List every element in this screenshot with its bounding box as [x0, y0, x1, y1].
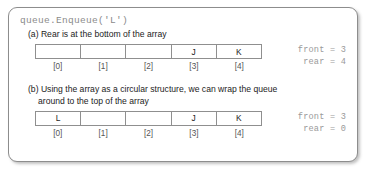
- array-b: L J K [0] [1] [2] [3] [4]: [35, 111, 262, 139]
- front-pointer-label: front = 3: [260, 111, 346, 123]
- array-cell: [36, 45, 81, 58]
- array-b-indices: [0] [1] [2] [3] [4]: [35, 128, 262, 139]
- array-a: J K [0] [1] [2] [3] [4]: [35, 44, 262, 72]
- array-b-cells: L J K: [35, 111, 262, 126]
- pointer-labels-b: front = 3 rear = 0: [260, 111, 346, 135]
- array-cell: [81, 112, 126, 125]
- caption-b-text: Using the array as a circular structure,…: [41, 84, 277, 94]
- array-index-label: [4]: [217, 128, 262, 139]
- array-cell: J: [172, 45, 217, 58]
- array-index-label: [0]: [35, 128, 80, 139]
- array-index-label: [0]: [35, 61, 80, 72]
- code-title: queue.Enqueue('L'): [20, 14, 348, 27]
- array-index-label: [3]: [171, 61, 216, 72]
- array-index-label: [3]: [171, 128, 216, 139]
- caption-b-continuation: around to the top of the array: [28, 96, 348, 107]
- array-cell: J: [172, 112, 217, 125]
- array-cell: L: [36, 112, 81, 125]
- rear-pointer-label: rear = 4: [260, 56, 346, 68]
- rear-pointer-label: rear = 0: [260, 123, 346, 135]
- pointer-labels-a: front = 3 rear = 4: [260, 44, 346, 68]
- array-index-label: [2]: [126, 128, 171, 139]
- array-index-label: [2]: [126, 61, 171, 72]
- caption-b: (b) Using the array as a circular struct…: [20, 84, 348, 107]
- front-pointer-label: front = 3: [260, 44, 346, 56]
- array-index-label: [1]: [80, 128, 125, 139]
- array-cell: K: [217, 45, 261, 58]
- caption-b-label: (b): [28, 84, 39, 94]
- caption-a: (a) Rear is at the bottom of the array: [20, 29, 348, 40]
- array-index-label: [1]: [80, 61, 125, 72]
- array-a-cells: J K: [35, 44, 262, 59]
- array-cell: [126, 45, 171, 58]
- array-cell: [126, 112, 171, 125]
- array-index-label: [4]: [217, 61, 262, 72]
- figure-panel: queue.Enqueue('L') (a) Rear is at the bo…: [8, 7, 358, 162]
- caption-a-label: (a): [28, 29, 39, 39]
- array-a-indices: [0] [1] [2] [3] [4]: [35, 61, 262, 72]
- caption-a-text: Rear is at the bottom of the array: [41, 29, 167, 39]
- figure-inner: queue.Enqueue('L') (a) Rear is at the bo…: [9, 8, 357, 161]
- array-cell: [81, 45, 126, 58]
- array-panel-a: J K [0] [1] [2] [3] [4] front = 3 rear =…: [20, 44, 348, 82]
- array-panel-b: L J K [0] [1] [2] [3] [4] front = 3 rear…: [20, 111, 348, 149]
- array-cell: K: [217, 112, 261, 125]
